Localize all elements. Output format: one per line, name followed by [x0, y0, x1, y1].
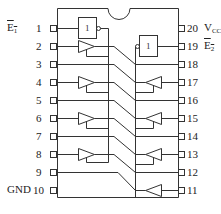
right-buffers: [136, 65, 179, 197]
pin-18: 18: [187, 59, 198, 70]
inverter-2-label: 1: [146, 41, 151, 51]
crossing-wires: [109, 47, 136, 191]
pin-17: 17: [187, 77, 198, 88]
gnd-label: GND: [7, 184, 31, 195]
pin-9: 9: [36, 167, 42, 178]
pin-2: 2: [36, 41, 42, 52]
pin-3: 3: [36, 59, 42, 70]
pin-4: 4: [36, 77, 42, 88]
e1-label: E1: [7, 22, 17, 37]
pin-20: 20: [187, 23, 198, 34]
pin-10: 10: [33, 185, 44, 196]
pin-1: 1: [36, 23, 42, 34]
left-pin-stubs: [51, 26, 57, 194]
pin-6: 6: [36, 113, 42, 124]
pin-14: 14: [187, 131, 198, 142]
pin-19: 19: [187, 41, 198, 52]
pin-12: 12: [187, 167, 198, 178]
pin-13: 13: [187, 149, 198, 160]
inverter-1-label: 1: [85, 23, 90, 33]
pin-11: 11: [187, 185, 198, 196]
chip-body: [58, 9, 179, 198]
pin-16: 16: [187, 95, 198, 106]
pin-5: 5: [36, 95, 42, 106]
pin-8: 8: [36, 149, 42, 160]
right-pin-stubs: [179, 26, 185, 194]
left-buffers: [58, 41, 109, 163]
pin-7: 7: [36, 131, 42, 142]
vcc-label: VCC: [204, 22, 221, 37]
pin-15: 15: [187, 113, 198, 124]
e2-label: E2: [204, 40, 214, 55]
